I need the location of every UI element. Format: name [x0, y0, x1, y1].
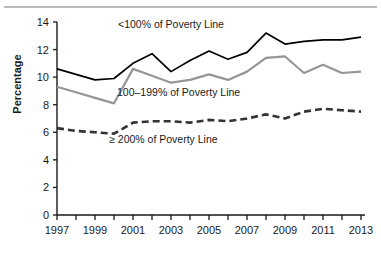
y-axis-tick-label: 6 [43, 126, 49, 138]
x-axis-tick-label: 1997 [45, 224, 69, 236]
x-axis-tick-label: 2011 [311, 224, 335, 236]
series-line-0 [57, 33, 361, 80]
chart-figure: Percentage 02468101214199719992001200320… [0, 0, 381, 257]
x-axis-tick-label: 2009 [273, 224, 297, 236]
x-axis-tick-label: 2003 [159, 224, 183, 236]
x-axis-tick-label: 2005 [197, 224, 221, 236]
y-axis-tick-label: 4 [43, 154, 49, 166]
y-axis-tick-label: 2 [43, 181, 49, 193]
series-line-2 [57, 109, 361, 134]
series-annotation-1: 100–199% of Poverty Line [117, 86, 240, 98]
y-axis-tick-label: 0 [43, 209, 49, 221]
series-annotation-2: ≥ 200% of Poverty Line [109, 133, 218, 145]
x-axis-tick-label: 2013 [349, 224, 373, 236]
y-axis-tick-label: 8 [43, 99, 49, 111]
x-axis-tick-label: 2007 [235, 224, 259, 236]
line-chart-plot: 0246810121419971999200120032005200720092… [0, 0, 381, 257]
y-axis-tick-label: 10 [37, 71, 49, 83]
y-axis-tick-label: 12 [37, 44, 49, 56]
x-axis-tick-label: 2001 [121, 224, 145, 236]
y-axis-tick-label: 14 [37, 16, 49, 28]
x-axis-tick-label: 1999 [83, 224, 107, 236]
series-annotation-0: <100% of Poverty Line [118, 18, 224, 30]
